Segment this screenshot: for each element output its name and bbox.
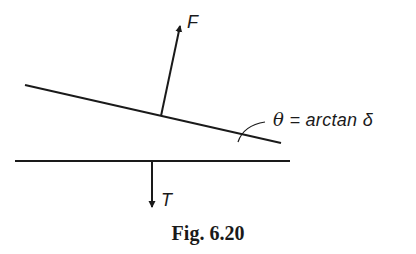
angle-equation: = arctan δ <box>284 110 373 130</box>
force-label: F <box>187 12 198 33</box>
tension-label: T <box>161 190 172 211</box>
figure-caption: Fig. 6.20 <box>0 222 416 245</box>
theta-symbol: θ <box>273 109 284 130</box>
force-arrow <box>161 26 180 116</box>
diagram: F T θ = arctan δ Fig. 6.20 <box>0 0 416 254</box>
angle-label: θ = arctan δ <box>273 109 373 131</box>
